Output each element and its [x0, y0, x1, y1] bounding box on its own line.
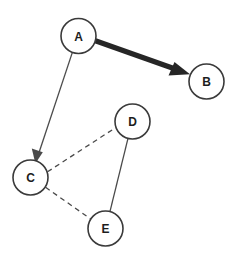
edge-a-b[interactable] [95, 41, 190, 76]
node-layer: A B C D E [13, 19, 224, 247]
node-a[interactable]: A [61, 19, 96, 54]
node-b[interactable]: B [189, 64, 224, 99]
edge-a-c-line [39, 53, 72, 152]
node-d-label: D [128, 115, 137, 129]
node-e[interactable]: E [88, 211, 123, 246]
edge-d-e[interactable] [110, 138, 128, 211]
node-d[interactable]: D [115, 104, 150, 139]
node-c[interactable]: C [13, 160, 48, 195]
edge-layer [32, 41, 190, 219]
edge-a-b-arrowhead [169, 62, 191, 76]
edge-a-c[interactable] [32, 53, 72, 163]
edge-a-b-line [95, 41, 178, 70]
edge-c-d[interactable] [48, 128, 116, 172]
node-c-label: C [26, 171, 35, 185]
graph-diagram: A B C D E [0, 0, 237, 258]
node-b-label: B [202, 75, 211, 89]
node-e-label: E [101, 222, 109, 236]
node-a-label: A [74, 30, 83, 44]
edge-c-e[interactable] [46, 187, 91, 219]
